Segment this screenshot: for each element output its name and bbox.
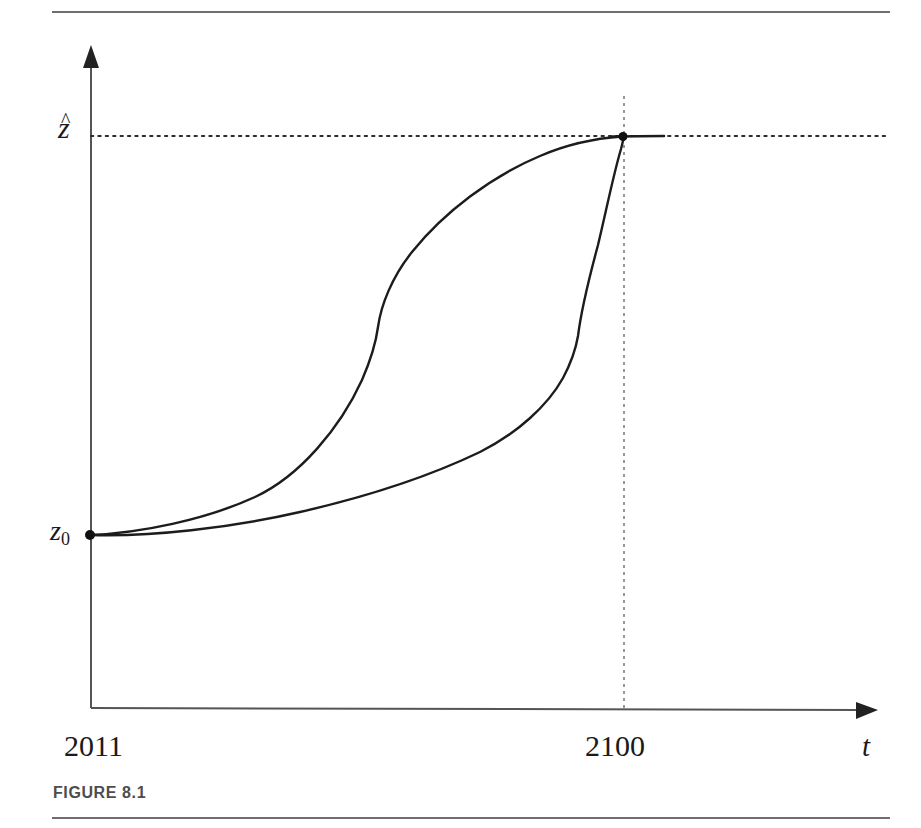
bottom-divider-rule [52, 817, 890, 819]
x-axis-arrowhead [856, 702, 878, 719]
z0-base: z [50, 515, 61, 546]
start-point-marker [85, 530, 95, 540]
circumflex-accent-icon: ^ [61, 110, 70, 130]
x-axis-tick-2011: 2011 [64, 729, 123, 763]
y-axis [83, 45, 99, 708]
curve-slow-late-transition [90, 137, 624, 536]
x-axis-label-t: t [862, 730, 870, 763]
chart-canvas [0, 0, 921, 828]
y-axis-arrowhead [83, 45, 99, 68]
figure-page: ^z z0 2011 2100 t FIGURE 8.1 [0, 0, 921, 828]
figure-caption: FIGURE 8.1 [53, 784, 146, 802]
x-axis [91, 702, 878, 719]
curve-fast-early-transition [90, 137, 622, 536]
y-axis-label-z0: z0 [50, 517, 70, 548]
x-axis-tick-2100: 2100 [585, 729, 645, 763]
z0-subscript: 0 [61, 529, 70, 549]
y-axis-label-zhat: ^z [58, 113, 70, 143]
end-point-marker [619, 132, 628, 141]
